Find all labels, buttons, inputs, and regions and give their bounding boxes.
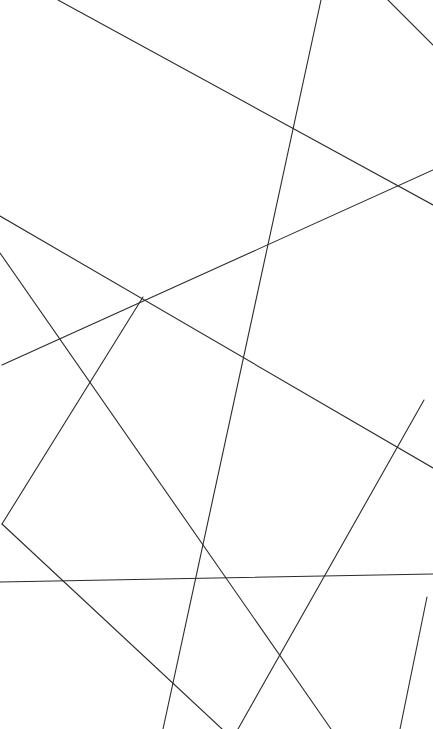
figure-background — [0, 0, 433, 729]
line-figure-svg — [0, 0, 433, 729]
figure-canvas — [0, 0, 433, 729]
